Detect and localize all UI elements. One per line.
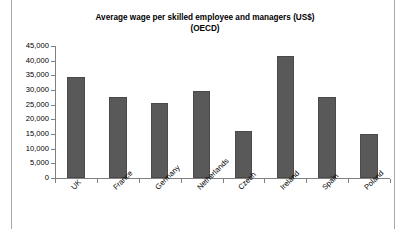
y-tick-label: 15,000 <box>26 130 49 138</box>
y-tick-label: 40,000 <box>26 57 49 65</box>
bar <box>67 77 85 178</box>
y-axis-line <box>55 46 56 179</box>
y-tick-mark <box>51 119 55 120</box>
y-tick-label: 30,000 <box>26 86 49 94</box>
x-tick-mark <box>55 179 56 183</box>
x-tick-mark <box>97 179 98 183</box>
y-tick-label: 0 <box>45 174 49 182</box>
y-tick-label: 45,000 <box>26 42 49 50</box>
y-tick-mark <box>51 75 55 76</box>
x-category-label: UK <box>70 179 83 192</box>
x-tick-mark <box>306 179 307 183</box>
x-tick-mark <box>223 179 224 183</box>
bar <box>318 97 336 178</box>
y-tick-mark <box>51 61 55 62</box>
x-tick-mark <box>390 179 391 183</box>
y-tick-mark <box>51 163 55 164</box>
y-tick-label: 20,000 <box>26 116 49 124</box>
x-tick-mark <box>181 179 182 183</box>
y-tick-mark <box>51 90 55 91</box>
y-tick-label: 25,000 <box>26 101 49 109</box>
bar <box>109 97 127 178</box>
y-tick-mark <box>51 46 55 47</box>
figure-right-border <box>394 0 395 229</box>
y-tick-label: 10,000 <box>26 145 49 153</box>
bar <box>151 103 169 178</box>
chart-title: Average wage per skilled employee and ma… <box>40 12 370 34</box>
y-tick-mark <box>51 134 55 135</box>
y-tick-mark <box>51 149 55 150</box>
y-tick-label: 35,000 <box>26 72 49 80</box>
x-tick-mark <box>348 179 349 183</box>
x-tick-mark <box>139 179 140 183</box>
y-tick-label: 5,000 <box>30 160 49 168</box>
chart-figure: Average wage per skilled employee and ma… <box>0 0 406 229</box>
y-tick-mark <box>51 105 55 106</box>
plot-area: 05,00010,00015,00020,00025,00030,00035,0… <box>55 46 390 178</box>
bar <box>277 56 295 178</box>
bar <box>193 91 211 178</box>
figure-left-border <box>11 0 12 229</box>
x-tick-mark <box>264 179 265 183</box>
